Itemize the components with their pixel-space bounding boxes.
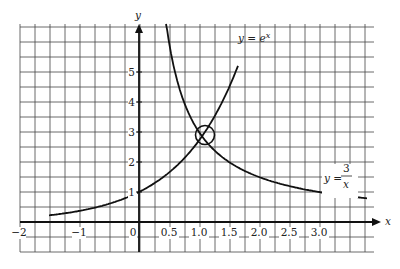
recip-label-den: x — [343, 178, 349, 190]
y-tick-label: 2 — [128, 156, 135, 168]
exp-label-text: y = e — [237, 32, 266, 44]
x-tick-label: −1 — [71, 226, 86, 238]
y-tick-label: 4 — [128, 96, 135, 108]
recip-label-num: 3 — [343, 162, 350, 174]
y-axis-label: y — [134, 9, 142, 21]
exp-label-sup: x — [266, 31, 271, 40]
x-tick-label: 1.5 — [221, 226, 238, 238]
x-axis-arrow-icon — [372, 218, 381, 226]
x-tick-label: 0 — [130, 226, 137, 238]
svg-text:y = ex: y = ex — [237, 31, 271, 44]
y-tick-label: 5 — [128, 66, 135, 78]
x-tick-label: 2.0 — [251, 226, 268, 238]
series-label-recip: y = 3 x — [322, 162, 358, 198]
x-tick-label: −2 — [11, 226, 26, 238]
y-tick-label: 3 — [128, 126, 135, 138]
x-tick-label: 1.0 — [191, 226, 208, 238]
x-tick-label: 0.5 — [161, 226, 178, 238]
x-tick-label: 2.5 — [281, 226, 298, 238]
x-axis-label: x — [385, 215, 391, 227]
series-label-exp: y = ex — [237, 31, 271, 44]
grid — [20, 24, 374, 252]
graph-figure: −2−100.51.01.52.02.53.012345 x y y = ex … — [0, 0, 400, 269]
y-axis-arrow-icon — [135, 24, 143, 33]
intersection-circle — [196, 126, 215, 145]
curve-exp — [49, 66, 238, 216]
recip-label-text: y = — [323, 172, 342, 184]
y-tick-label: 1 — [128, 186, 135, 198]
x-tick-label: 3.0 — [311, 226, 328, 238]
curves — [49, 24, 367, 215]
